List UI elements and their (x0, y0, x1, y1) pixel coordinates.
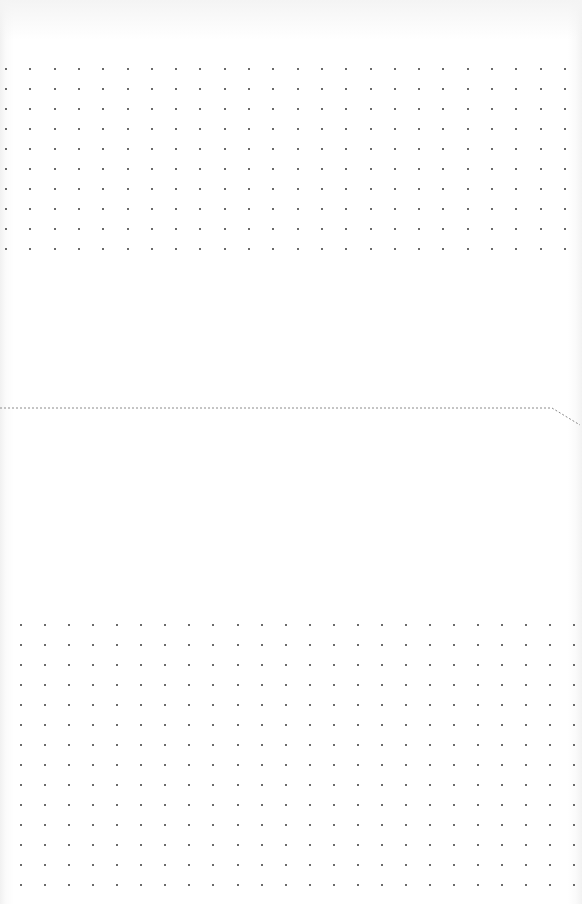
grid-dot (381, 724, 383, 726)
grid-dot (285, 864, 287, 866)
grid-dot (261, 664, 263, 666)
grid-dot (333, 884, 335, 886)
grid-dot (333, 624, 335, 626)
grid-dot (309, 824, 311, 826)
grid-dot (309, 804, 311, 806)
grid-dot (237, 644, 239, 646)
grid-dot (285, 644, 287, 646)
grid-dot (333, 704, 335, 706)
grid-dot (309, 644, 311, 646)
grid-dot (429, 804, 431, 806)
grid-dot (357, 704, 359, 706)
grid-dot (381, 884, 383, 886)
grid-dot (429, 684, 431, 686)
grid-dot (405, 884, 407, 886)
grid-dot (357, 624, 359, 626)
grid-dot (309, 624, 311, 626)
grid-dot (405, 684, 407, 686)
grid-dot (381, 844, 383, 846)
grid-dot (285, 844, 287, 846)
grid-dot (381, 744, 383, 746)
grid-dot (357, 724, 359, 726)
grid-dot (309, 744, 311, 746)
grid-dot (237, 884, 239, 886)
grid-dot (20, 824, 22, 826)
grid-dot (429, 864, 431, 866)
grid-dot (237, 684, 239, 686)
grid-dot (429, 744, 431, 746)
grid-dot (261, 644, 263, 646)
grid-dot (285, 784, 287, 786)
grid-dot (381, 784, 383, 786)
grid-dot (20, 724, 22, 726)
grid-dot (20, 704, 22, 706)
grid-dot (285, 744, 287, 746)
grid-dot (405, 804, 407, 806)
grid-dot (261, 884, 263, 886)
grid-dot (357, 684, 359, 686)
grid-dot (429, 844, 431, 846)
grid-dot (381, 764, 383, 766)
grid-dot (429, 624, 431, 626)
grid-dot (333, 764, 335, 766)
grid-dot (381, 824, 383, 826)
grid-dot (309, 664, 311, 666)
grid-dot (261, 804, 263, 806)
grid-dot (237, 804, 239, 806)
grid-dot (429, 764, 431, 766)
grid-dot (405, 624, 407, 626)
grid-dot (405, 744, 407, 746)
grid-dot (333, 744, 335, 746)
grid-dot (20, 744, 22, 746)
grid-dot (309, 784, 311, 786)
grid-dot (261, 864, 263, 866)
grid-dot (357, 804, 359, 806)
grid-dot (20, 884, 22, 886)
grid-dot (285, 764, 287, 766)
grid-dot (381, 704, 383, 706)
grid-dot (20, 764, 22, 766)
grid-dot (20, 624, 22, 626)
grid-dot (357, 764, 359, 766)
grid-dot (309, 764, 311, 766)
grid-dot (405, 644, 407, 646)
grid-dot (261, 764, 263, 766)
grid-dot (285, 624, 287, 626)
grid-dot (405, 724, 407, 726)
grid-dot (381, 624, 383, 626)
dot-grid-page (0, 0, 582, 904)
grid-dot (405, 784, 407, 786)
grid-dot (405, 704, 407, 706)
grid-dot (381, 684, 383, 686)
grid-dot (237, 664, 239, 666)
grid-dot (20, 804, 22, 806)
grid-dot (285, 684, 287, 686)
grid-dot (237, 844, 239, 846)
grid-dot (237, 624, 239, 626)
grid-dot (429, 724, 431, 726)
grid-dot (261, 824, 263, 826)
grid-dot (429, 784, 431, 786)
grid-dot (261, 624, 263, 626)
grid-dot (20, 864, 22, 866)
grid-dot (429, 664, 431, 666)
grid-dot (429, 644, 431, 646)
grid-dot (429, 704, 431, 706)
grid-dot (285, 704, 287, 706)
grid-dot (261, 704, 263, 706)
grid-dot (333, 784, 335, 786)
grid-dot (357, 784, 359, 786)
grid-dot (285, 884, 287, 886)
grid-dot (237, 744, 239, 746)
grid-dot (405, 844, 407, 846)
grid-dot (20, 784, 22, 786)
grid-dot (381, 664, 383, 666)
grid-dot (405, 864, 407, 866)
grid-dot (357, 744, 359, 746)
grid-dot (333, 844, 335, 846)
grid-dot (309, 864, 311, 866)
grid-dot (237, 864, 239, 866)
grid-dot (405, 764, 407, 766)
grid-dot (357, 664, 359, 666)
grid-dot (429, 884, 431, 886)
